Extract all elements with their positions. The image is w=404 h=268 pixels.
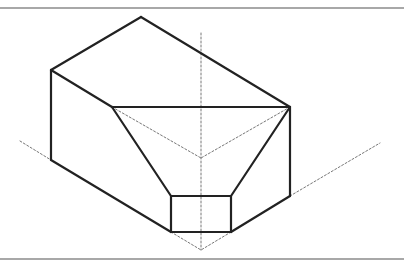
dashed-edge [290, 143, 380, 196]
dashed-edge [201, 232, 231, 250]
solid-edge [231, 107, 290, 196]
solid-edge [51, 70, 112, 107]
isometric-block-diagram [0, 0, 404, 268]
dashed-edge [112, 107, 201, 158]
dashed-edge [20, 141, 51, 160]
solid-edge [141, 17, 290, 107]
solid-edge [51, 17, 141, 70]
dashed-edge [171, 232, 201, 250]
visible-edges [51, 17, 290, 232]
solid-edge [231, 196, 290, 232]
dashed-edge [201, 107, 290, 158]
solid-edge [112, 107, 171, 196]
hidden-lines [20, 33, 380, 250]
